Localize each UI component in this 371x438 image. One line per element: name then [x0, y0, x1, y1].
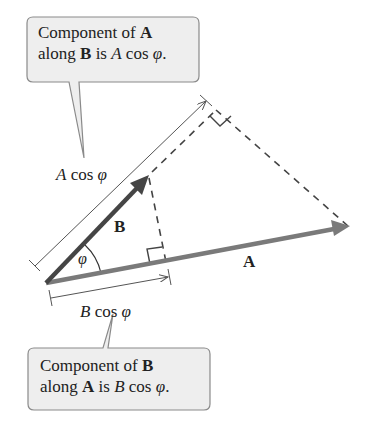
callout-bottom-bold-B: B	[142, 356, 153, 375]
callout-bottom-line2: along A is B cos φ.	[40, 376, 169, 397]
label-B-phi: φ	[122, 302, 131, 321]
callout-top-cos: cos	[122, 44, 153, 63]
label-B-cos: cos	[90, 302, 121, 321]
dashed-extension-B	[152, 110, 216, 172]
callout-top-period: .	[162, 44, 166, 63]
label-A-phi: φ	[98, 165, 107, 184]
label-B-var: B	[80, 302, 90, 321]
callout-top-is: is	[91, 44, 111, 63]
callout-top-bold-A: A	[140, 23, 152, 42]
label-A-cos: cos	[66, 165, 97, 184]
callout-bottom-along: along	[40, 377, 82, 396]
callout-top-text-plain: Component of	[38, 23, 140, 42]
callout-top-phi: φ	[153, 44, 162, 63]
vector-A-label: A	[243, 253, 255, 270]
callout-bottom-is: is	[94, 377, 114, 396]
angle-arc	[85, 245, 101, 273]
callout-bottom-text: Component of B along A is B cos φ.	[40, 355, 169, 397]
callout-bottom-italic-B: B	[114, 377, 124, 396]
callout-bottom-period: .	[165, 377, 169, 396]
callout-top-along: along	[38, 44, 80, 63]
callout-top-bold-B: B	[80, 44, 91, 63]
callout-top-text: Component of A along B is A cos φ.	[38, 22, 166, 64]
label-B-cos-phi: B cos φ	[80, 303, 131, 320]
callout-bottom-text-plain: Component of	[40, 356, 142, 375]
callout-top-italic-A: A	[111, 44, 121, 63]
callout-top-line1: Component of A	[38, 22, 166, 43]
angle-phi-label: φ	[78, 251, 87, 267]
dashed-perpendicular-A	[216, 110, 348, 226]
vector-projection-diagram: Component of A along B is A cos φ. Compo…	[0, 0, 371, 438]
dimension-B-cos-phi	[49, 269, 171, 306]
callout-top-line2: along B is A cos φ.	[38, 43, 166, 64]
callout-bottom-line1: Component of B	[40, 355, 169, 376]
vector-B-label: B	[114, 218, 125, 235]
callout-bottom-cos: cos	[125, 377, 156, 396]
label-A-var: A	[56, 165, 66, 184]
callout-bottom-phi: φ	[156, 377, 165, 396]
label-A-cos-phi: A cos φ	[56, 166, 107, 183]
dashed-perpendicular-B	[149, 178, 166, 262]
callout-bottom-bold-A: A	[82, 377, 94, 396]
